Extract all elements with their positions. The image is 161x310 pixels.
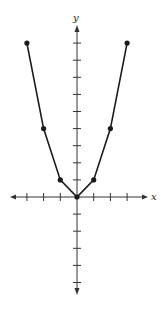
data-point bbox=[24, 41, 29, 46]
data-point bbox=[91, 177, 96, 182]
data-point bbox=[41, 126, 46, 131]
data-point bbox=[108, 126, 113, 131]
parabola-chart: x y bbox=[0, 0, 161, 310]
y-axis-label: y bbox=[72, 12, 79, 23]
y-axis-down-arrow-icon bbox=[75, 288, 80, 295]
data-point bbox=[74, 194, 79, 199]
x-axis-label: x bbox=[151, 191, 157, 202]
x-axis-left-arrow-icon bbox=[10, 195, 16, 200]
x-axis-right-arrow-icon bbox=[142, 195, 148, 200]
data-point bbox=[58, 177, 63, 182]
y-axis-up-arrow-icon bbox=[75, 25, 80, 32]
data-point bbox=[125, 41, 130, 46]
